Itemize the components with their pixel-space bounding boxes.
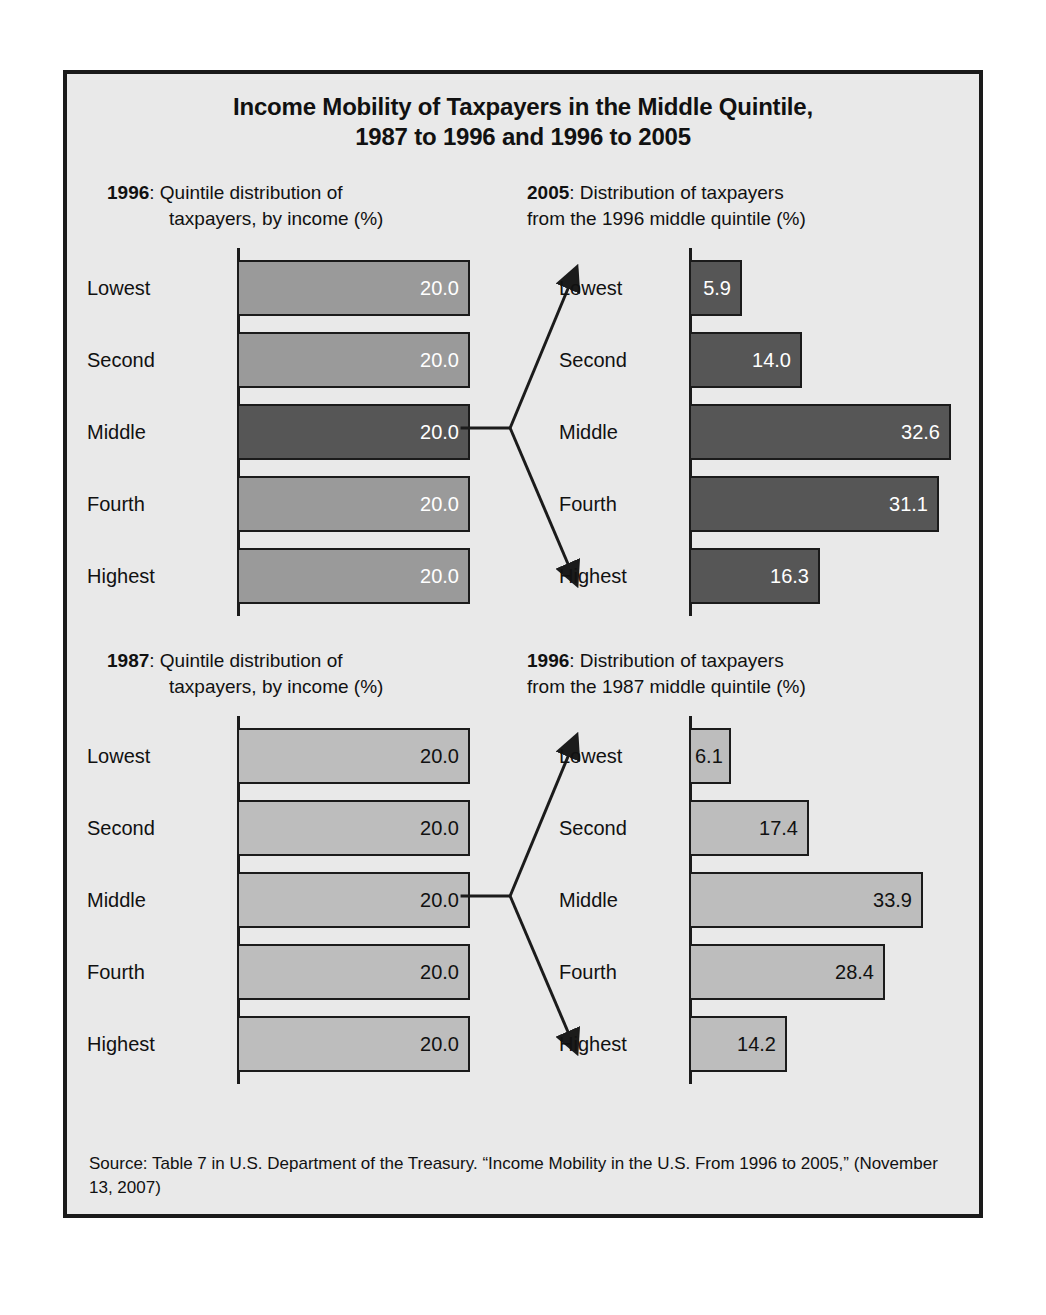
category-label: Second bbox=[87, 792, 219, 864]
category-label: Fourth bbox=[87, 936, 219, 1008]
bar-track: 20.0 bbox=[237, 324, 507, 396]
bar-value-label: 20.0 bbox=[420, 961, 459, 984]
bar-track: 20.0 bbox=[237, 252, 507, 324]
figure-panel: Income Mobility of Taxpayers in the Midd… bbox=[63, 70, 983, 1218]
chart-1996-from-1987-middle: Lowest 6.1 Second 17.4 Middle bbox=[537, 720, 967, 1080]
bar-track: 20.0 bbox=[237, 1008, 507, 1080]
category-label: Middle bbox=[559, 396, 689, 468]
table-row: Middle 33.9 bbox=[537, 864, 967, 936]
table-row: Second 20.0 bbox=[87, 792, 507, 864]
bar[interactable]: 20.0 bbox=[237, 332, 470, 388]
bar[interactable]: 20.0 bbox=[237, 728, 470, 784]
chart-2005-from-1996-middle: Lowest 5.9 Second 14.0 Middle bbox=[537, 252, 967, 612]
bar-value-label: 5.9 bbox=[703, 277, 731, 300]
bar[interactable]: 33.9 bbox=[689, 872, 923, 928]
bar-value-label: 17.4 bbox=[759, 817, 798, 840]
block-top-headings: 1996: Quintile distribution of taxpayers… bbox=[67, 180, 979, 242]
bar[interactable]: 31.1 bbox=[689, 476, 939, 532]
bar-value-label: 20.0 bbox=[420, 349, 459, 372]
category-label: Highest bbox=[559, 540, 689, 612]
heading-text-line-2: from the 1987 middle quintile (%) bbox=[527, 674, 947, 700]
bar-value-label: 20.0 bbox=[420, 277, 459, 300]
bar-value-label: 14.0 bbox=[752, 349, 791, 372]
bar-track: 20.0 bbox=[237, 468, 507, 540]
bar-value-label: 20.0 bbox=[420, 889, 459, 912]
bar[interactable]: 16.3 bbox=[689, 548, 820, 604]
bar[interactable]: 20.0 bbox=[237, 800, 470, 856]
bar-value-label: 20.0 bbox=[420, 421, 459, 444]
bar-track: 6.1 bbox=[689, 720, 967, 792]
bar-value-label: 33.9 bbox=[873, 889, 912, 912]
category-label: Highest bbox=[87, 1008, 219, 1080]
category-label: Second bbox=[559, 324, 689, 396]
figure-title-line-1: Income Mobility of Taxpayers in the Midd… bbox=[233, 93, 813, 120]
category-label: Middle bbox=[87, 864, 219, 936]
table-row: Second 17.4 bbox=[537, 792, 967, 864]
block-bottom-headings: 1987: Quintile distribution of taxpayers… bbox=[67, 648, 979, 710]
heading-text-line-1: : Distribution of taxpayers bbox=[569, 650, 783, 671]
heading-text-line-2: taxpayers, by income (%) bbox=[107, 674, 487, 700]
table-row: Fourth 20.0 bbox=[87, 936, 507, 1008]
bar[interactable]: 6.1 bbox=[689, 728, 731, 784]
heading-2005-distribution: 2005: Distribution of taxpayers from the… bbox=[527, 180, 947, 232]
table-row: Middle 32.6 bbox=[537, 396, 967, 468]
bar[interactable]: 14.0 bbox=[689, 332, 802, 388]
bar-track: 20.0 bbox=[237, 936, 507, 1008]
bar-track: 20.0 bbox=[237, 792, 507, 864]
figure-title: Income Mobility of Taxpayers in the Midd… bbox=[67, 92, 979, 152]
category-label: Middle bbox=[559, 864, 689, 936]
bar-track: 20.0 bbox=[237, 540, 507, 612]
table-row: Lowest 6.1 bbox=[537, 720, 967, 792]
bar-track: 32.6 bbox=[689, 396, 967, 468]
category-label: Fourth bbox=[559, 936, 689, 1008]
table-row: Lowest 5.9 bbox=[537, 252, 967, 324]
bar-track: 14.2 bbox=[689, 1008, 967, 1080]
bar[interactable]: 28.4 bbox=[689, 944, 885, 1000]
table-row: Middle 20.0 bbox=[87, 864, 507, 936]
block-1996-to-2005: 1996: Quintile distribution of taxpayers… bbox=[67, 180, 979, 600]
table-row: Fourth 28.4 bbox=[537, 936, 967, 1008]
bar-track: 14.0 bbox=[689, 324, 967, 396]
bar-value-label: 20.0 bbox=[420, 1033, 459, 1056]
bar[interactable]: 32.6 bbox=[689, 404, 951, 460]
category-label: Lowest bbox=[559, 720, 689, 792]
category-label: Lowest bbox=[87, 720, 219, 792]
source-note: Source: Table 7 in U.S. Department of th… bbox=[89, 1152, 957, 1200]
category-label: Middle bbox=[87, 396, 219, 468]
heading-year: 1987 bbox=[107, 650, 149, 671]
bar[interactable]: 20.0 bbox=[237, 1016, 470, 1072]
bar-value-label: 20.0 bbox=[420, 493, 459, 516]
bar-value-label: 20.0 bbox=[420, 817, 459, 840]
bar-track: 28.4 bbox=[689, 936, 967, 1008]
bar-value-label: 20.0 bbox=[420, 745, 459, 768]
bar[interactable]: 14.2 bbox=[689, 1016, 787, 1072]
table-row: Highest 16.3 bbox=[537, 540, 967, 612]
table-row: Fourth 20.0 bbox=[87, 468, 507, 540]
category-label: Second bbox=[559, 792, 689, 864]
block-1987-to-1996: 1987: Quintile distribution of taxpayers… bbox=[67, 648, 979, 1068]
bar-track: 20.0 bbox=[237, 396, 507, 468]
figure-title-line-2: 1987 to 1996 and 1996 to 2005 bbox=[355, 123, 691, 150]
heading-1987-distribution: 1987: Quintile distribution of taxpayers… bbox=[107, 648, 487, 700]
bar[interactable]: 20.0 bbox=[237, 548, 470, 604]
table-row: Highest 20.0 bbox=[87, 540, 507, 612]
category-label: Lowest bbox=[87, 252, 219, 324]
bar-highlighted[interactable]: 20.0 bbox=[237, 872, 470, 928]
bar[interactable]: 20.0 bbox=[237, 944, 470, 1000]
table-row: Second 14.0 bbox=[537, 324, 967, 396]
bar-track: 31.1 bbox=[689, 468, 967, 540]
bar[interactable]: 20.0 bbox=[237, 476, 470, 532]
table-row: Second 20.0 bbox=[87, 324, 507, 396]
category-label: Fourth bbox=[87, 468, 219, 540]
heading-text-line-1: : Quintile distribution of bbox=[149, 650, 342, 671]
heading-year: 1996 bbox=[527, 650, 569, 671]
bar-value-label: 6.1 bbox=[695, 745, 723, 768]
bar-value-label: 28.4 bbox=[835, 961, 874, 984]
bar-value-label: 16.3 bbox=[770, 565, 809, 588]
category-label: Highest bbox=[87, 540, 219, 612]
bar[interactable]: 5.9 bbox=[689, 260, 742, 316]
bar-highlighted[interactable]: 20.0 bbox=[237, 404, 470, 460]
bar[interactable]: 17.4 bbox=[689, 800, 809, 856]
table-row: Highest 14.2 bbox=[537, 1008, 967, 1080]
bar[interactable]: 20.0 bbox=[237, 260, 470, 316]
